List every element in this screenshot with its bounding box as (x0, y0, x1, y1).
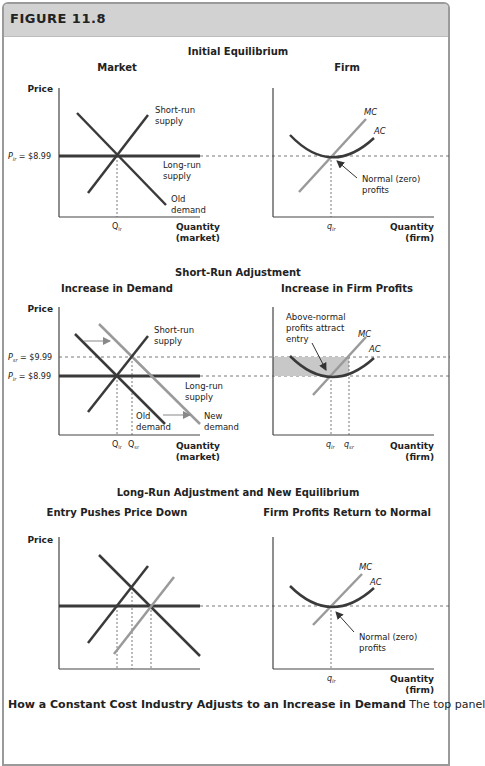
svg-text:Qsr: Qsr (128, 440, 140, 450)
svg-text:Qlr: Qlr (112, 222, 123, 232)
section-title-long-run: Long-Run Adjustment and New Equilibrium (117, 487, 360, 498)
svg-text:supply: supply (185, 392, 213, 402)
chart-firm-long-run: MC AC Normal (zero) profits qlr Quantity… (273, 537, 434, 695)
svg-text:Quantity: Quantity (390, 441, 434, 451)
svg-text:entry: entry (286, 334, 308, 344)
svg-text:Price: Price (27, 304, 53, 314)
panel-title-profits-return: Firm Profits Return to Normal (263, 507, 431, 518)
panel-title-market: Market (97, 62, 137, 73)
caption-text: The top panel (409, 698, 485, 711)
svg-text:Short-run: Short-run (155, 105, 195, 115)
svg-text:profits attract: profits attract (286, 323, 345, 333)
figure-caption: How a Constant Cost Industry Adjusts to … (8, 698, 485, 711)
chart-firm-short-run: MC AC Above-normal profits attract entry… (273, 307, 434, 462)
svg-text:profits: profits (359, 643, 387, 653)
panel-title-increase-profits: Increase in Firm Profits (281, 283, 413, 294)
svg-text:supply: supply (154, 336, 182, 346)
svg-text:Qlr: Qlr (112, 440, 123, 450)
svg-text:qlr: qlr (327, 674, 336, 684)
svg-text:Short-run: Short-run (154, 325, 194, 335)
svg-text:(firm): (firm) (405, 233, 434, 243)
section-title-short-run: Short-Run Adjustment (175, 267, 301, 278)
svg-text:Normal (zero): Normal (zero) (359, 632, 417, 642)
svg-text:Quantity: Quantity (390, 674, 434, 684)
svg-text:MC: MC (364, 107, 377, 117)
svg-text:qlr: qlr (327, 222, 336, 232)
svg-text:Psr = $9.99: Psr = $9.99 (8, 353, 52, 363)
svg-text:demand: demand (204, 422, 239, 432)
svg-text:(firm): (firm) (405, 452, 434, 462)
chart-firm-initial: MC AC Normal (zero) profits qlr Quantity… (273, 88, 434, 243)
svg-text:(market): (market) (176, 233, 220, 243)
svg-text:New: New (204, 411, 223, 421)
svg-text:Quantity: Quantity (390, 222, 434, 232)
svg-text:Old: Old (171, 194, 185, 204)
section-title-initial: Initial Equilibrium (188, 46, 289, 57)
caption-title: How a Constant Cost Industry Adjusts to … (8, 698, 406, 711)
svg-text:AC: AC (369, 577, 382, 587)
svg-text:qlr: qlr (326, 440, 335, 450)
svg-text:supply: supply (163, 171, 191, 181)
svg-text:Long-run: Long-run (185, 381, 223, 391)
svg-text:profits: profits (362, 185, 390, 195)
svg-text:Old: Old (136, 411, 150, 421)
svg-text:Normal (zero): Normal (zero) (362, 174, 420, 184)
panel-title-increase-demand: Increase in Demand (61, 283, 173, 294)
chart-market-short-run: Price Short-run supply Long-run supply O… (8, 304, 450, 462)
chart-market-initial: Price Short-run supply Long-run supply O… (8, 84, 450, 243)
svg-text:Quantity: Quantity (176, 441, 220, 451)
svg-text:AC: AC (373, 126, 386, 136)
svg-text:MC: MC (358, 329, 371, 339)
panel-title-entry-pushes-price: Entry Pushes Price Down (47, 507, 188, 518)
chart-market-long-run: Price Entry Short-run supply Short-run s… (27, 535, 450, 669)
svg-text:Long-run: Long-run (163, 160, 201, 170)
svg-text:qsr: qsr (344, 440, 355, 450)
svg-text:(market): (market) (176, 452, 220, 462)
svg-text:AC: AC (368, 344, 381, 354)
svg-text:(firm): (firm) (405, 685, 434, 695)
svg-text:Price: Price (27, 84, 53, 94)
svg-text:demand: demand (136, 422, 171, 432)
svg-text:demand: demand (171, 205, 206, 215)
svg-text:Price: Price (27, 535, 53, 545)
svg-text:Plr = $8.99: Plr = $8.99 (8, 152, 51, 162)
svg-text:Above-normal: Above-normal (286, 312, 346, 322)
svg-text:supply: supply (155, 116, 183, 126)
svg-text:MC: MC (359, 562, 372, 572)
svg-text:Quantity: Quantity (176, 222, 220, 232)
svg-text:Plr = $8.99: Plr = $8.99 (8, 372, 51, 382)
panel-title-firm: Firm (334, 62, 360, 73)
